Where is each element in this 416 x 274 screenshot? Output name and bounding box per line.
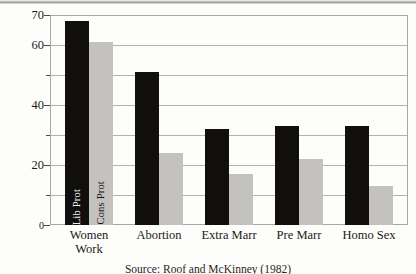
bar-cons-prot-extra-marr[interactable]	[229, 174, 253, 225]
bar-cons-prot-women-work[interactable]: Cons Prot	[89, 42, 113, 225]
bar-legend-lib-prot: Lib Prot	[65, 185, 89, 225]
x-label-women-work: Women Work	[54, 228, 124, 256]
bar-group-homo-sex	[334, 15, 404, 225]
y-tick-label-40: 40	[32, 98, 45, 113]
bar-lib-prot-homo-sex[interactable]	[345, 126, 369, 225]
bar-cons-prot-pre-marr[interactable]	[299, 159, 323, 225]
bars-layer: Lib Prot Cons Prot	[50, 15, 408, 225]
bar-legend-cons-prot: Cons Prot	[89, 177, 113, 225]
bar-lib-prot-abortion[interactable]	[135, 72, 159, 225]
bar-group-abortion	[124, 15, 194, 225]
bar-group-pre-marr	[264, 15, 334, 225]
x-label-extra-marr: Extra Marr	[194, 228, 264, 256]
y-tick-label-0: 0	[39, 220, 44, 231]
bar-cons-prot-homo-sex[interactable]	[369, 186, 393, 225]
bar-group-extra-marr	[194, 15, 264, 225]
x-label-homo-sex: Homo Sex	[334, 228, 404, 256]
y-tick-label-20: 20	[32, 158, 45, 173]
x-axis-labels: Women Work Abortion Extra Marr Pre Marr …	[50, 228, 408, 256]
bar-lib-prot-women-work[interactable]: Lib Prot	[65, 21, 89, 225]
bar-group-women-work: Lib Prot Cons Prot	[54, 15, 124, 225]
y-tick-label-60: 60	[32, 38, 45, 53]
bar-lib-prot-pre-marr[interactable]	[275, 126, 299, 225]
x-label-abortion: Abortion	[124, 228, 194, 256]
y-axis: 70 60 40 20 0	[0, 0, 50, 274]
bar-chart: 70 60 40 20 0 Lib Prot Cons Prot	[0, 0, 416, 274]
source-caption: Source: Roof and McKinney (1982)	[0, 263, 416, 274]
y-tick-mark-0	[44, 225, 50, 226]
x-label-pre-marr: Pre Marr	[264, 228, 334, 256]
bar-cons-prot-abortion[interactable]	[159, 153, 183, 225]
bar-lib-prot-extra-marr[interactable]	[205, 129, 229, 225]
y-tick-label-70: 70	[32, 8, 45, 23]
